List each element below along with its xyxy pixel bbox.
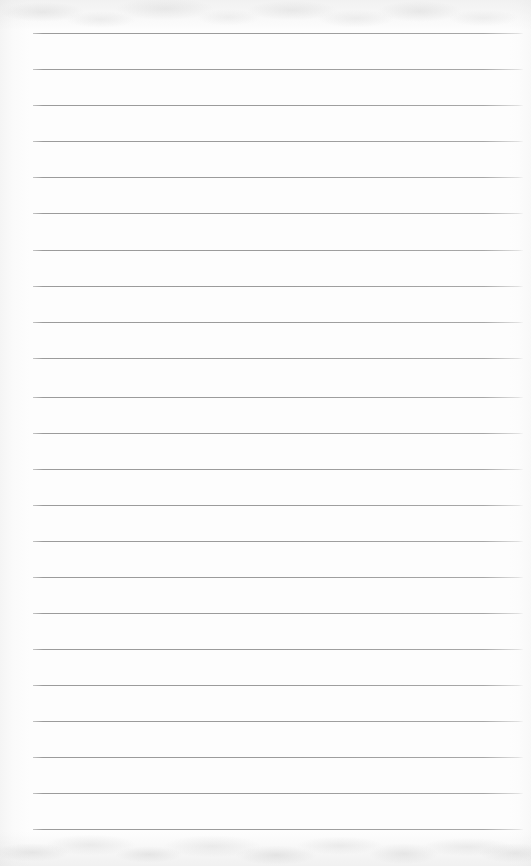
bottom-scan-artifact-band: [0, 832, 531, 866]
rule-line: [33, 397, 523, 398]
rule-line: [33, 69, 523, 70]
rule-line: [33, 469, 523, 470]
rule-line: [33, 322, 523, 323]
rule-line: [33, 433, 523, 434]
rule-line: [33, 141, 523, 142]
rule-line: [33, 177, 523, 178]
rule-line: [33, 250, 523, 251]
rule-line: [33, 541, 523, 542]
scanned-page: [0, 0, 531, 866]
rule-line: [33, 33, 523, 34]
rule-line: [33, 721, 523, 722]
rule-line: [33, 213, 523, 214]
rule-line: [33, 286, 523, 287]
top-scan-artifact-band: [0, 0, 531, 30]
rule-line: [33, 757, 523, 758]
rule-line: [33, 685, 523, 686]
rule-line: [33, 829, 523, 830]
rule-line: [33, 105, 523, 106]
rule-line: [33, 649, 523, 650]
rule-line: [33, 505, 523, 506]
ruled-lines-group: [0, 0, 531, 866]
rule-line: [33, 358, 523, 359]
rule-line: [33, 613, 523, 614]
rule-line: [33, 577, 523, 578]
rule-line: [33, 793, 523, 794]
